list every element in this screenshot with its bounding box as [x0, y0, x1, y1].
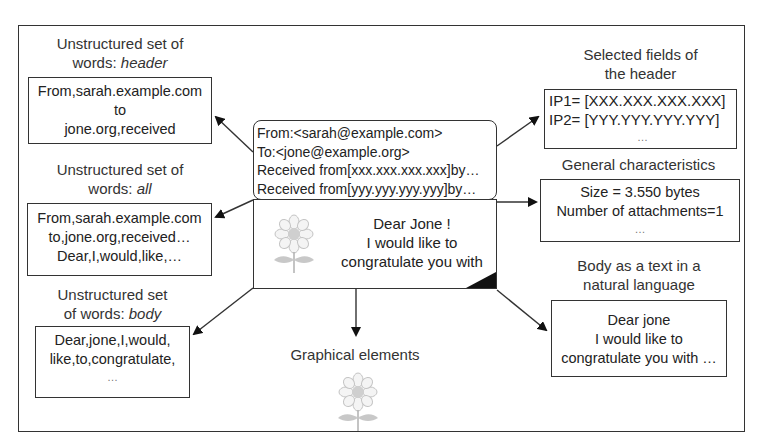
box-line: jone.org,received — [29, 120, 211, 139]
box-line: From,sarah.example.com — [29, 82, 211, 101]
box-line: IP1= [XXX.XXX.XXX.XXX] — [549, 91, 736, 110]
label-line: Unstructured set of — [57, 161, 184, 178]
email-header-line: To:<jone@example.org> — [257, 143, 496, 162]
label-line: words: — [72, 54, 120, 71]
label-line: General characteristics — [562, 156, 715, 173]
box-line: to,jone.org,received… — [28, 228, 211, 247]
label-body-text: Body as a text in a natural language — [551, 256, 727, 294]
label-line: Unstructured set of — [57, 35, 184, 52]
box-line: Dear,jone,I,would, — [36, 331, 189, 350]
arrow-to-all-words — [216, 200, 253, 217]
box-line: IP2= [YYY.YYY.YYY.YYY] — [549, 110, 736, 129]
box-body-text: Dear jone I would like to congratulate y… — [551, 300, 727, 377]
box-line: I would like to — [552, 330, 726, 349]
box-line: Size = 3.550 bytes — [541, 183, 739, 202]
label-line: of words: — [64, 305, 129, 322]
label-line: the header — [605, 65, 677, 82]
box-line: like,to,congratulate, — [36, 350, 189, 369]
email-body-line: I would like to — [332, 233, 492, 252]
email-message: From:<sarah@example.com> To:<jone@exampl… — [253, 120, 497, 289]
box-line: Number of attachments=1 — [541, 202, 739, 221]
email-header-line: From:<sarah@example.com> — [257, 124, 496, 143]
label-italic: body — [129, 305, 162, 322]
box-header-words: From,sarah.example.com to jone.org,recei… — [28, 77, 212, 144]
email-body: Dear Jone ! I would like to congratulate… — [253, 199, 497, 289]
label-line: words: — [88, 180, 136, 197]
email-body-line: Dear Jone ! — [332, 214, 492, 233]
box-line: Dear,I,would,like,… — [28, 247, 211, 266]
email-header-line: Received from[yyy.yyy.yyy.yyy]by… — [257, 180, 496, 199]
box-ellipsis: … — [549, 129, 736, 145]
label-general-characteristics: General characteristics — [536, 155, 741, 174]
page-corner-icon — [466, 272, 496, 288]
arrow-to-selected-fields — [497, 117, 538, 146]
label-selected-fields: Selected fields of the header — [544, 45, 737, 83]
label-all-words: Unstructured set of words: all — [28, 160, 212, 198]
label-line: Unstructured set — [57, 286, 167, 303]
box-body-words: Dear,jone,I,would, like,to,congratulate,… — [35, 326, 190, 398]
email-header: From:<sarah@example.com> To:<jone@exampl… — [253, 120, 497, 200]
box-general-characteristics: Size = 3.550 bytes Number of attachments… — [540, 179, 740, 242]
label-graphical-elements: Graphical elements — [280, 345, 430, 364]
label-line: Selected fields of — [583, 46, 697, 63]
box-line: From,sarah.example.com — [28, 209, 211, 228]
box-ellipsis: … — [541, 221, 739, 237]
box-selected-fields: IP1= [XXX.XXX.XXX.XXX] IP2= [YYY.YYY.YYY… — [544, 89, 737, 149]
flower-icon — [272, 214, 316, 274]
arrow-to-body-words — [194, 288, 253, 334]
label-italic: header — [121, 54, 168, 71]
flower-icon — [336, 372, 380, 432]
label-header-words: Unstructured set of words: header — [28, 34, 212, 72]
label-line: Body as a text in a — [577, 257, 700, 274]
box-line: to — [29, 101, 211, 120]
arrow-to-header-words — [216, 117, 253, 152]
label-line: natural language — [583, 276, 695, 293]
email-body-line: congratulate you with — [332, 252, 492, 271]
box-line: congratulate you with … — [552, 349, 726, 368]
email-header-line: Received from[xxx.xxx.xxx.xxx]by… — [257, 161, 496, 180]
box-ellipsis: … — [36, 369, 189, 385]
email-body-text: Dear Jone ! I would like to congratulate… — [332, 214, 492, 271]
box-all-words: From,sarah.example.com to,jone.org,recei… — [27, 203, 212, 276]
label-italic: all — [137, 180, 152, 197]
label-body-words: Unstructured set of words: body — [35, 285, 190, 323]
arrow-to-body-text — [497, 290, 546, 330]
box-line: Dear jone — [552, 311, 726, 330]
